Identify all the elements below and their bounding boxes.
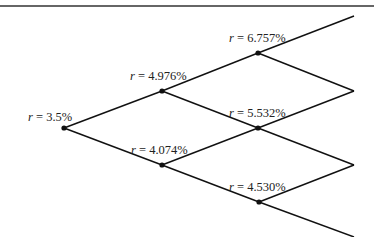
interest-rate-tree-diagram: r = 3.5%r = 4.976%r = 4.074%r = 6.757%r …: [0, 0, 374, 237]
rate-label-n1u: r = 4.976%: [130, 69, 187, 83]
tree-edge: [64, 91, 162, 128]
rate-label-n0: r = 3.5%: [28, 110, 72, 124]
rate-label-n2ud: r = 5.532%: [229, 106, 286, 120]
tree-edge: [259, 202, 354, 237]
tree-node-n2ud: [255, 125, 260, 130]
tree-node-n1d: [159, 162, 164, 167]
tree-node-n0: [61, 125, 66, 130]
tree-node-n2dd: [256, 199, 261, 204]
tree-edge: [258, 53, 354, 91]
rate-label-n1d: r = 4.074%: [131, 143, 188, 157]
tree-node-n1u: [159, 88, 164, 93]
tree-svg: r = 3.5%r = 4.976%r = 4.074%r = 6.757%r …: [0, 0, 374, 237]
tree-edge: [258, 128, 354, 165]
rate-label-n2uu: r = 6.757%: [229, 31, 286, 45]
rate-label-n2dd: r = 4.530%: [229, 180, 286, 194]
tree-node-n2uu: [255, 50, 260, 55]
